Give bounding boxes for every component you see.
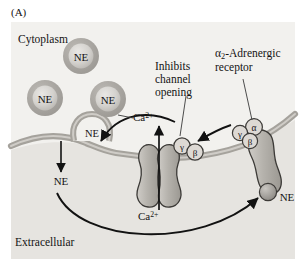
ne-fusing-vesicle-label: NE xyxy=(85,128,99,139)
inhibits-line-3: opening xyxy=(155,86,192,99)
calcium-charge: 2+ xyxy=(145,111,153,120)
calcium-charge: 2+ xyxy=(150,210,158,219)
ne-vesicle-label: NE xyxy=(38,93,53,105)
receptor-line-1: α2-Adrenergic xyxy=(215,47,281,61)
receptor-name: -Adrenergic xyxy=(225,47,280,59)
inhibits-line-2: channel xyxy=(155,73,192,86)
bound-ne-ligand xyxy=(259,183,276,200)
g-alpha-glyph: α xyxy=(252,123,257,133)
g-gamma-glyph: γ xyxy=(179,142,184,152)
calcium-label-bottom: Ca2+ xyxy=(138,210,158,222)
extracellular-label: Extracellular xyxy=(15,236,74,249)
ne-released-label: NE xyxy=(54,175,69,187)
inhibits-channel-opening-label: Inhibits channel opening xyxy=(155,60,192,99)
ne-bound-ligand-label: NE xyxy=(280,191,295,203)
g-gamma-glyph: γ xyxy=(237,129,242,139)
g-beta-glyph: β xyxy=(193,148,198,158)
calcium-label-top: Ca2+ xyxy=(133,111,153,123)
figure-panel-a: α γ β γ β NE NE NE NE xyxy=(0,0,306,271)
inhibits-line-1: Inhibits xyxy=(155,60,192,73)
ne-vesicle-label: NE xyxy=(74,51,89,63)
g-beta-glyph: β xyxy=(248,137,253,147)
adrenergic-receptor-label: α2-Adrenergic receptor xyxy=(215,47,281,74)
panel-letter: (A) xyxy=(11,6,26,18)
calcium-symbol: Ca xyxy=(138,210,150,222)
receptor-line-2: receptor xyxy=(215,61,281,74)
ne-vesicle-label: NE xyxy=(101,94,116,106)
calcium-symbol: Ca xyxy=(133,111,145,123)
cytoplasm-label: Cytoplasm xyxy=(18,33,68,46)
